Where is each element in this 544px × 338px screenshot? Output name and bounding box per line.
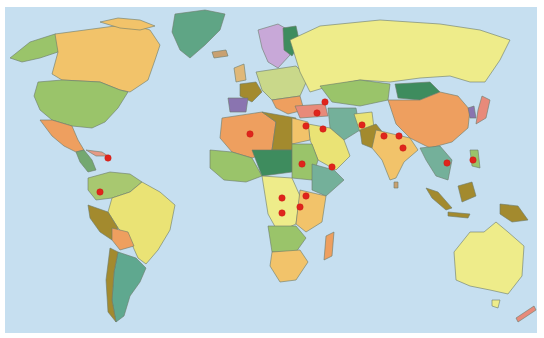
egypt [292, 118, 310, 144]
australia [454, 222, 524, 294]
uk [234, 64, 246, 82]
borneo [458, 182, 476, 202]
marker-dot [381, 133, 387, 139]
marker-dot [279, 210, 285, 216]
tasmania [492, 300, 500, 308]
marker-dot [247, 131, 253, 137]
sumatra [426, 188, 452, 210]
marker-dot [470, 157, 476, 163]
marker-dot [329, 164, 335, 170]
marker-dot [303, 193, 309, 199]
spain [228, 98, 248, 112]
ethiopia-horn [312, 164, 344, 196]
marker-dot [359, 122, 365, 128]
turkey [295, 104, 328, 118]
madagascar [324, 232, 334, 260]
new-zealand [516, 306, 536, 322]
marker-dot [314, 110, 320, 116]
cuba [86, 150, 108, 156]
central-africa [262, 176, 300, 232]
marker-dot [444, 160, 450, 166]
marker-dot [396, 133, 402, 139]
east-africa [296, 190, 326, 232]
marker-dot [97, 189, 103, 195]
marker-dot [105, 155, 111, 161]
japan [476, 96, 490, 124]
new-guinea [500, 204, 528, 222]
world-map [5, 7, 537, 333]
marker-dot [297, 204, 303, 210]
marker-dot [303, 123, 309, 129]
russia [290, 20, 510, 92]
southern-africa [270, 250, 308, 282]
marker-dot [320, 126, 326, 132]
java [448, 212, 470, 218]
marker-dot [279, 195, 285, 201]
sri-lanka [394, 182, 398, 188]
angola-zambia [268, 226, 306, 252]
greenland [172, 10, 225, 58]
argentina [112, 252, 146, 322]
map-svg [5, 7, 537, 333]
marker-dot [322, 99, 328, 105]
marker-dot [299, 161, 305, 167]
iceland [212, 50, 228, 58]
marker-dot [400, 145, 406, 151]
